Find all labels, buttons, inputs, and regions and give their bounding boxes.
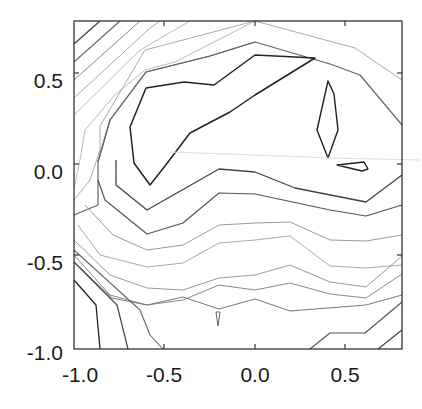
y-axis-labels: 0.5 0.0 -0.5 -1.0: [27, 69, 63, 364]
x-tick-label: -1.0: [62, 363, 98, 386]
x-tick-label: -0.5: [146, 363, 182, 386]
x-axis-labels: -1.0 -0.5 0.0 0.5: [62, 363, 360, 386]
x-tick-label: 0.5: [330, 363, 359, 386]
y-tick-label: -1.0: [27, 341, 63, 364]
x-tick-label: 0.0: [240, 363, 269, 386]
y-tick-label: 0.0: [34, 160, 63, 183]
contour-lines: [74, 21, 420, 349]
y-tick-label: -0.5: [27, 251, 63, 274]
contour-chart: -1.0 -0.5 0.0 0.5 0.5 0.0 -0.5 -1.0: [0, 0, 422, 409]
y-tick-label: 0.5: [34, 69, 63, 92]
